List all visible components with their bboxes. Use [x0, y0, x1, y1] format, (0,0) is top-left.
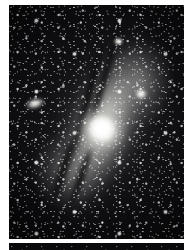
- emulsion-grain: [9, 5, 184, 239]
- lower-strip-grain: [9, 243, 184, 250]
- lower-dark-strip: [9, 243, 184, 250]
- astrophotograph-frame: [9, 5, 184, 239]
- photographic-plate: [0, 0, 184, 250]
